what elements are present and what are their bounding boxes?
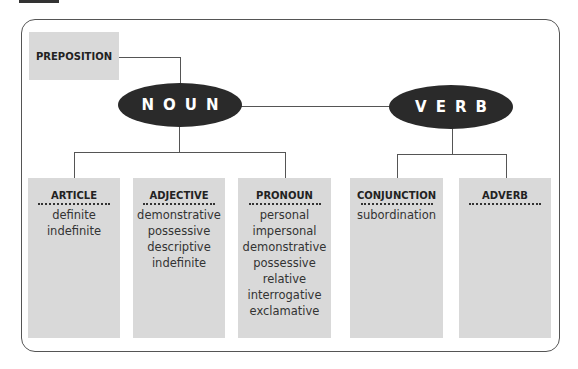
category-item: possessive	[133, 223, 225, 239]
connector-verb-h	[397, 154, 507, 155]
verb-node: VERB	[389, 85, 513, 129]
noun-label: NOUN	[132, 96, 227, 114]
connector-prep-h	[119, 57, 181, 58]
category-item: relative	[238, 271, 331, 287]
category-item: personal	[238, 207, 331, 223]
category-item: demonstrative	[238, 239, 331, 255]
dotted-divider	[249, 203, 321, 205]
verb-label: VERB	[406, 98, 496, 116]
category-title: CONJUNCTION	[350, 190, 443, 201]
header-tab-bar	[19, 0, 59, 3]
category-title: PRONOUN	[238, 190, 331, 201]
connector-noun-down	[179, 126, 180, 152]
dotted-divider	[469, 203, 541, 205]
category-title: ARTICLE	[28, 190, 120, 201]
connector-conjunction	[397, 154, 398, 180]
category-conjunction: CONJUNCTION subordination	[350, 178, 443, 338]
category-item: definite	[28, 207, 120, 223]
connector-noun-verb	[240, 106, 392, 107]
category-item: demonstrative	[133, 207, 225, 223]
category-pronoun: PRONOUN personal impersonal demonstrativ…	[238, 178, 331, 338]
dotted-divider	[38, 203, 110, 205]
category-item: possessive	[238, 255, 331, 271]
noun-node: NOUN	[118, 83, 242, 127]
connector-prep-v	[180, 57, 181, 83]
category-article: ARTICLE definite indefinite	[28, 178, 120, 338]
category-title: ADJECTIVE	[133, 190, 225, 201]
dotted-divider	[361, 203, 433, 205]
category-title: ADVERB	[459, 190, 551, 201]
preposition-box: PREPOSITION	[29, 32, 119, 80]
category-item: indefinite	[133, 255, 225, 271]
preposition-label: PREPOSITION	[36, 51, 112, 62]
category-item: subordination	[350, 207, 443, 223]
category-item: interrogative	[238, 287, 331, 303]
category-adverb: ADVERB	[459, 178, 551, 338]
connector-adverb	[506, 154, 507, 180]
connector-pronoun	[285, 152, 286, 178]
connector-article	[74, 152, 75, 178]
category-item: exclamative	[238, 303, 331, 319]
category-item: indefinite	[28, 223, 120, 239]
category-item: descriptive	[133, 239, 225, 255]
category-adjective: ADJECTIVE demonstrative possessive descr…	[133, 178, 225, 338]
category-item: impersonal	[238, 223, 331, 239]
connector-verb-down	[452, 128, 453, 154]
dotted-divider	[143, 203, 215, 205]
connector-noun-h	[74, 152, 286, 153]
